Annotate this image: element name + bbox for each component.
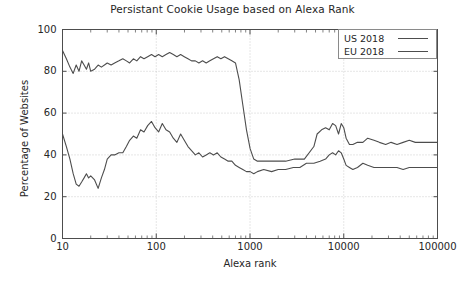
legend-item-us: US 2018 — [344, 32, 428, 45]
x-tick-label: 100 — [126, 241, 186, 252]
y-tick-label: 20 — [17, 191, 57, 202]
y-tick-label: 80 — [17, 65, 57, 76]
series-line-us-2018 — [63, 50, 438, 161]
x-tick-label: 10 — [33, 241, 93, 252]
x-tick-label: 10000 — [314, 241, 374, 252]
legend-swatch-us — [398, 38, 428, 39]
chart-figure: Persistant Cookie Usage based on Alexa R… — [0, 0, 465, 281]
y-tick-label: 100 — [17, 24, 57, 35]
legend-label-us: US 2018 — [344, 33, 396, 44]
y-tick-label: 60 — [17, 107, 57, 118]
x-tick-label: 100000 — [408, 241, 465, 252]
chart-legend: US 2018 EU 2018 — [338, 29, 437, 59]
legend-label-eu: EU 2018 — [344, 46, 396, 57]
x-tick-label: 1000 — [220, 241, 280, 252]
legend-swatch-eu — [398, 51, 428, 52]
legend-item-eu: EU 2018 — [344, 45, 428, 58]
y-tick-label: 40 — [17, 149, 57, 160]
